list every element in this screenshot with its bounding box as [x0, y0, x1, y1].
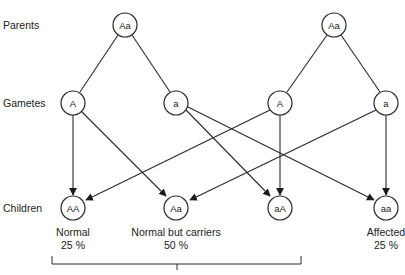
outcome-normal: Normal 25 %	[56, 226, 90, 252]
svg-text:Aa: Aa	[119, 20, 131, 31]
parent-nodes: Aa Aa	[113, 13, 346, 37]
svg-text:A: A	[277, 98, 284, 109]
svg-text:aA: aA	[274, 203, 286, 214]
row-label-parents: Parents	[3, 19, 39, 31]
gamete-node-1: A	[61, 91, 85, 115]
outcome-percent: 25 %	[367, 239, 405, 252]
gamete-child-arrows	[73, 107, 386, 200]
outcome-percent: 25 %	[56, 239, 90, 252]
row-label-children: Children	[3, 202, 42, 214]
outcome-label: Affected	[367, 226, 405, 239]
outcome-label: Normal but carriers	[131, 226, 220, 239]
arrow-A-to-Aa	[82, 112, 166, 196]
child-node-1: AA	[61, 196, 85, 220]
parent-node-left: Aa	[113, 13, 137, 37]
row-label-gametes: Gametes	[3, 97, 46, 109]
svg-text:Aa: Aa	[328, 20, 340, 31]
child-nodes: AA Aa aA aa	[61, 196, 398, 220]
child-node-4: aa	[374, 196, 398, 220]
child-node-3: aA	[268, 196, 292, 220]
svg-text:a: a	[173, 98, 179, 109]
arrow-A2-to-AA	[86, 110, 270, 200]
parent-gamete-lines	[80, 35, 380, 92]
gamete-node-2: a	[164, 91, 188, 115]
child-node-2: Aa	[164, 196, 188, 220]
outcome-label: Normal	[56, 226, 90, 239]
gamete-nodes: A a A a	[61, 91, 398, 115]
svg-text:aa: aa	[381, 203, 392, 214]
arrow-a-to-aa	[188, 107, 374, 200]
normal-bracket	[52, 256, 301, 270]
svg-text:A: A	[70, 98, 77, 109]
gamete-node-4: a	[374, 91, 398, 115]
svg-text:Aa: Aa	[170, 203, 182, 214]
outcome-affected: Affected 25 %	[367, 226, 405, 252]
svg-text:a: a	[383, 98, 389, 109]
outcome-percent: 50 %	[131, 239, 220, 252]
gamete-node-3: A	[268, 91, 292, 115]
arrow-a-to-aA	[186, 110, 270, 196]
outcome-carriers: Normal but carriers 50 %	[131, 226, 220, 252]
parent-node-right: Aa	[322, 13, 346, 37]
svg-text:AA: AA	[67, 203, 80, 214]
